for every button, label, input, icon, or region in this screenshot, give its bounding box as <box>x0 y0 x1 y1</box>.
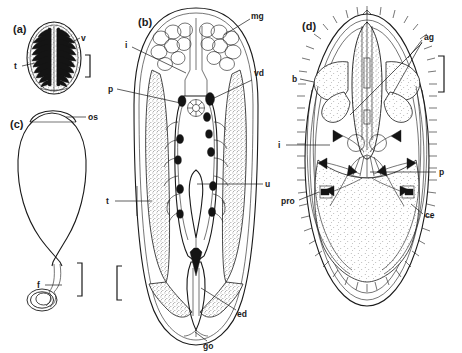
panel-d-leader-b <box>300 79 314 82</box>
panel-d-body <box>297 6 437 306</box>
panel-a-body <box>27 22 81 94</box>
panel-b-label: (b) <box>138 16 152 28</box>
panel-d: (d) <box>278 6 444 306</box>
panel-a-label: (a) <box>13 23 27 35</box>
panel-a-label-v: v <box>81 33 86 43</box>
panel-d-label-b: b <box>292 74 297 84</box>
panel-b-body <box>134 8 258 345</box>
panel-b-leader-t <box>115 186 152 216</box>
panel-d-label: (d) <box>302 20 316 32</box>
panel-b-label-vd: vd <box>254 68 264 78</box>
panel-d-label-ce: ce <box>425 210 435 220</box>
panel-c-scale-bar <box>77 263 82 296</box>
figure-plate: (a) <box>0 0 462 353</box>
panel-b-label-mg: mg <box>251 11 264 21</box>
panel-b-rosette <box>188 100 205 117</box>
panel-d-label-ag: ag <box>424 32 434 42</box>
panel-d-label-pro: pro <box>281 196 295 206</box>
panel-b: (b) <box>106 8 270 351</box>
panel-b-leader-mg <box>224 19 250 35</box>
panel-d-label-i: i <box>278 140 280 150</box>
panel-a: (a) <box>13 22 90 94</box>
panel-b-duct-branches <box>164 122 228 222</box>
panel-b-label-go: go <box>203 341 213 351</box>
panel-d-scale-bar <box>438 56 444 92</box>
panel-c-label-os: os <box>88 112 98 122</box>
panel-b-label-i: i <box>125 40 127 50</box>
panel-b-label-ed: ed <box>237 309 247 319</box>
panel-a-scale-bar <box>85 55 90 77</box>
panel-b-label-p: p <box>108 84 113 94</box>
panel-c-tail-coil <box>27 289 57 311</box>
panel-d-label-p: p <box>439 167 444 177</box>
panel-c-label: (c) <box>10 118 24 130</box>
panel-b-label-u: u <box>265 179 270 189</box>
panel-d-fan-organ <box>349 155 385 178</box>
panel-a-label-t: t <box>14 61 17 71</box>
panel-c-body <box>18 111 86 311</box>
panel-c-label-f: f <box>37 280 40 290</box>
panel-b-genital-opening <box>184 330 208 337</box>
panel-c: (c) os <box>10 111 98 311</box>
panel-b-leader-i <box>132 47 186 73</box>
panel-b-scale-bar <box>117 266 122 300</box>
panel-b-label-t: t <box>106 196 109 206</box>
